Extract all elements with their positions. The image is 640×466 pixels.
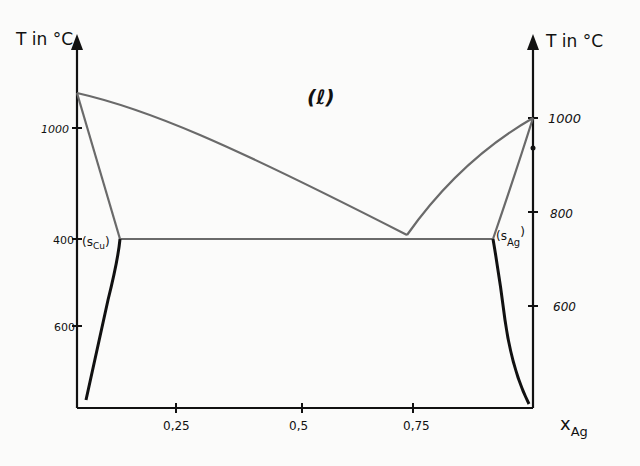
right-axis-arrow-icon — [527, 34, 539, 50]
y-label-right: T in °C — [545, 31, 603, 51]
x-axis-label: xAg — [560, 413, 588, 439]
left-tick-label-1000: 1000 — [41, 123, 69, 136]
y-label-left: T in °C — [15, 29, 73, 49]
s-ag-label: (sAg) — [496, 225, 525, 248]
right-tick-label-1000: 1000 — [548, 111, 581, 126]
solvus-cu — [86, 239, 120, 400]
left-tick-label-400: 400 — [53, 234, 74, 247]
liquid-region-label: (ℓ) — [307, 85, 335, 109]
solidus-cu-side — [77, 93, 120, 239]
left-tick-label-600: 600 — [54, 321, 75, 334]
x-tick-label-05: 0,5 — [289, 419, 308, 433]
right-tick-label-600: 600 — [553, 300, 576, 314]
phase-diagram: T in °C T in °C 1000 400 600 1000 800 60… — [0, 0, 640, 466]
x-tick-label-025: 0,25 — [163, 419, 190, 433]
solvus-ag — [493, 239, 529, 404]
solidus-ag-side — [493, 118, 533, 239]
x-tick-label-075: 0,75 — [403, 419, 430, 433]
right-axis-dot — [531, 146, 536, 151]
s-cu-label: (sCu) — [82, 235, 110, 251]
right-tick-label-800: 800 — [550, 207, 573, 221]
liquidus-cu-side — [77, 93, 407, 235]
